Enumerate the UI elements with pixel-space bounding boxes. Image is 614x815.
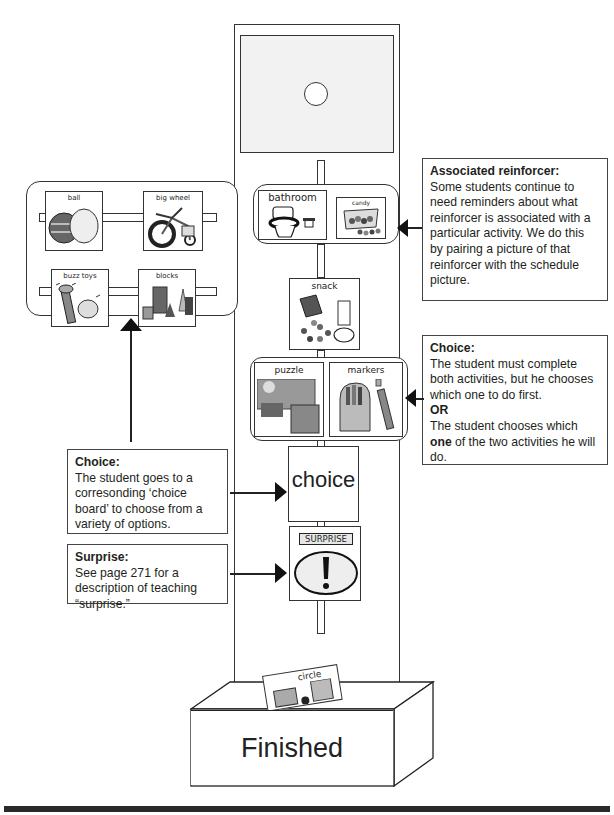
choice-card[interactable]: choice (288, 446, 359, 522)
callout-line2: The student chooses which one of the two… (430, 419, 600, 466)
surprise-card[interactable]: SURPRISE (289, 526, 361, 601)
arrow-line (406, 227, 422, 229)
callout-choice-right: Choice: The student must complete both a… (422, 335, 608, 465)
callout-surprise: Surprise: See page 271 for a description… (67, 544, 228, 604)
arrow-line (230, 492, 276, 494)
arrow-right-icon (275, 482, 287, 502)
candy-label: candy (337, 199, 385, 206)
choice-label: choice (289, 467, 358, 493)
puzzle-label: puzzle (255, 365, 323, 375)
circle-icon (304, 82, 328, 106)
puzzle-card[interactable]: puzzle (254, 362, 324, 437)
arrow-line (416, 398, 424, 400)
markers-label: markers (330, 365, 402, 375)
arrow-right-icon (275, 563, 287, 583)
choice-board: ball big wheel buzz toys blocks (26, 181, 238, 316)
big-wheel-card[interactable]: big wheel (143, 191, 203, 251)
rail-segment (317, 160, 325, 185)
blocks-icon (141, 283, 195, 325)
callout-associated-reinforcer: Associated reinforcer: Some students con… (422, 158, 608, 301)
candy-card[interactable]: candy (336, 197, 386, 239)
callout-line1: The student must complete both activitie… (430, 357, 600, 404)
finished-label: Finished (191, 733, 393, 764)
callout-line2-post: of the two activities he will do. (430, 435, 595, 465)
finished-box-front: Finished (191, 710, 393, 785)
markers-icon (334, 379, 400, 435)
surprise-label-box: SURPRISE (299, 533, 353, 545)
markers-card[interactable]: markers (329, 362, 403, 437)
arrow-left-icon (397, 219, 408, 237)
arrow-line (130, 330, 132, 442)
big-wheel-label: big wheel (144, 194, 202, 202)
ball-icon (48, 206, 102, 248)
puzzle-icon (257, 379, 321, 435)
callout-line2-pre: The student chooses which (430, 419, 578, 433)
callout-body: The student goes to a corresonding ‘choi… (75, 471, 220, 533)
bathroom-label: bathroom (259, 192, 326, 203)
toilet-icon (267, 205, 323, 239)
ball-card[interactable]: ball (45, 191, 103, 251)
callout-title: Surprise: (75, 550, 220, 566)
rail-segment (317, 600, 325, 634)
callout-line2-bold: one (430, 435, 452, 449)
callout-title: Choice: (430, 341, 600, 357)
callout-title: Associated reinforcer: (430, 164, 600, 180)
callout-choice-left: Choice: The student goes to a corresondi… (67, 449, 228, 534)
surprise-label: SURPRISE (300, 534, 352, 544)
blocks-card[interactable]: blocks (138, 269, 196, 327)
buzz-toys-icon (54, 283, 108, 325)
footer-bar (4, 806, 610, 812)
snack-card[interactable]: snack (289, 278, 360, 350)
tricycle-icon (148, 204, 200, 248)
callout-or: OR (430, 403, 600, 419)
top-panel (240, 35, 394, 153)
reinforcer-group: bathroom candy (253, 184, 399, 244)
rail-segment (317, 244, 325, 278)
blocks-label: blocks (139, 272, 195, 280)
arrow-line (230, 573, 276, 575)
choice-pair-group: puzzle markers (250, 357, 408, 441)
snack-label: snack (290, 281, 359, 291)
snack-food-icon (294, 293, 356, 347)
exclamation-icon (293, 549, 359, 597)
callout-body: Some students continue to need reminders… (430, 180, 600, 289)
buzz-toys-label: buzz toys (52, 272, 108, 280)
callout-title: Choice: (75, 455, 220, 471)
ball-label: ball (46, 194, 102, 202)
buzz-toys-card[interactable]: buzz toys (51, 269, 109, 327)
arrow-left-icon (405, 389, 416, 407)
callout-body: See page 271 for a description of teachi… (75, 566, 220, 613)
candy-bag-icon (340, 207, 384, 237)
arrow-up-icon (120, 318, 142, 331)
bathroom-card[interactable]: bathroom (258, 190, 327, 240)
